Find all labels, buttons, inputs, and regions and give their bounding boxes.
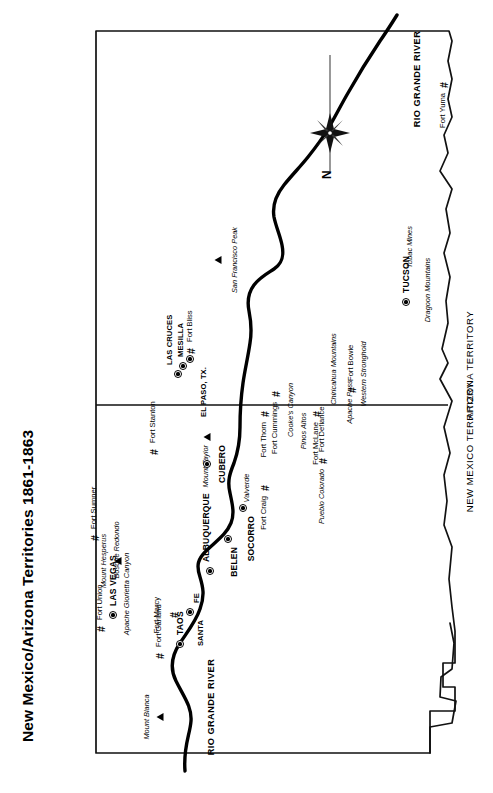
fort-label-fort-stanton: Fort Stanton bbox=[149, 401, 157, 443]
city-dot-icon-cubero bbox=[203, 460, 211, 468]
mountain-triangle-icon-mount-blanca bbox=[157, 713, 164, 721]
mountain-label-mount-blanca: Mount Blanca bbox=[143, 694, 151, 739]
fort-label-fort-bowie: Fort Bowie bbox=[347, 345, 355, 381]
page-title: New Mexico/Arizona Territories 1861-1863 bbox=[19, 422, 37, 742]
fort-label-fort-craig: Fort Craig bbox=[260, 496, 268, 530]
city-label-taos: TAOS bbox=[176, 611, 185, 635]
fort-hash-icon-fort-garland: # bbox=[150, 653, 168, 659]
fort-label-fort-marcy: Fort Marcy bbox=[153, 597, 161, 633]
place-label-pinos-altos: Pinos Altos bbox=[300, 413, 308, 450]
compass-rose: N bbox=[300, 53, 360, 173]
fort-hash-icon-fort-craig: # bbox=[255, 485, 273, 491]
mountain-triangle-icon-san-francisco-peak bbox=[215, 256, 222, 264]
city-label-fe: FE bbox=[193, 593, 201, 603]
city-label-santa: SANTA bbox=[197, 620, 205, 646]
fort-label-fort-thorn: Fort Thorn bbox=[260, 422, 268, 457]
place-label-apache-pass: Apache Pass bbox=[346, 380, 354, 424]
california-boundary-path bbox=[430, 623, 456, 753]
mountain-triangle-icon-mount-taylor bbox=[204, 433, 211, 441]
rotated-map-body: RIO GRANDE RIVER RIO GRANDE RIVER NEW ME… bbox=[0, 0, 493, 793]
place-label-pueblo-colorado: Pueblo Colorado bbox=[318, 469, 326, 524]
map-canvas: RIO GRANDE RIVER RIO GRANDE RIVER NEW ME… bbox=[0, 0, 493, 793]
city-dot-icon-taos bbox=[176, 640, 184, 648]
fort-hash-icon-fort-union: # bbox=[91, 626, 109, 632]
fort-hash-icon-fort-stanton: # bbox=[144, 449, 162, 455]
city-dot-icon-albuquerque bbox=[206, 567, 214, 575]
city-dot-icon-santa-fe bbox=[186, 608, 194, 616]
fort-label-fort-union: Fort Union bbox=[96, 585, 104, 620]
fort-label-fort-bliss: Fort Bliss bbox=[186, 310, 194, 342]
city-dot-icon-tucson bbox=[402, 298, 410, 306]
compass-rose-icon bbox=[300, 53, 360, 173]
fort-label-fort-cummings: Fort Cummings bbox=[271, 402, 279, 454]
fort-hash-icon-fort-cummings: # bbox=[266, 391, 284, 397]
city-label-cubero: CUBERO bbox=[218, 445, 227, 483]
fort-hash-icon-fort-yuma: # bbox=[434, 82, 452, 88]
place-label-bosque-redondo: Bosque Redondo bbox=[113, 521, 121, 578]
fort-label-fort-mclane: Fort McLane bbox=[312, 422, 320, 465]
river-label-rio-grande-south: RIO GRANDE RIVER bbox=[413, 31, 422, 128]
place-label-tubac-mines: Tubac Mines bbox=[406, 226, 414, 268]
city-label-belen: BELEN bbox=[230, 547, 239, 577]
place-label-valverde: Valverde bbox=[243, 474, 251, 503]
city-dot-icon-las-cruces bbox=[174, 370, 182, 378]
place-text-apache-glorietta-canyon: Apache Glorietta Canyon bbox=[122, 553, 131, 636]
city-dot-icon-las-vegas bbox=[109, 611, 117, 619]
fort-label-fort-sumner: Fort Sumner bbox=[90, 487, 98, 529]
city-dot-icon-el-paso bbox=[186, 355, 194, 363]
river-label-rio-grande-north: RIO GRANDE RIVER bbox=[207, 659, 216, 756]
mountain-label-mount-hesperus: Mount Hesperus bbox=[100, 534, 108, 588]
city-label-albuquerque: ALBUQUERQUE bbox=[202, 493, 211, 562]
city-label-mesilla: MESILLA bbox=[177, 323, 185, 357]
mountain-label-san-francisco-peak: San Francisco Peak bbox=[231, 227, 239, 293]
city-label-el-paso: EL PASO, TX. bbox=[200, 367, 208, 417]
city-label-socorro: SOCORRO bbox=[247, 516, 256, 561]
place-label-dragoon-mountains: Dragoon Mountains bbox=[424, 258, 432, 323]
fort-label-fort-yuma: Fort Yuma bbox=[439, 93, 447, 128]
fort-hash-icon-fort-sumner: # bbox=[85, 535, 103, 541]
compass-north-label: N bbox=[320, 170, 334, 179]
city-dot-icon-belen bbox=[224, 535, 232, 543]
city-label-las-cruces: LAS CRUCES bbox=[166, 315, 174, 365]
city-dot-icon-mesilla bbox=[179, 362, 187, 370]
place-label-apache-glorietta-canyon: Apache Glorietta Canyon bbox=[123, 553, 131, 636]
fort-hash-icon-fort-mclane: # bbox=[307, 411, 325, 417]
city-dot-icon-socorro bbox=[239, 504, 247, 512]
place-label-chiricahua-mountains: Chiricahua Mountains bbox=[330, 333, 338, 404]
territory-label-arizona: ARIZONA TERRITORY bbox=[465, 311, 475, 419]
place-label-cookes-canyon: Cooke's Canyon bbox=[287, 383, 295, 437]
place-label-western-stronghold: Western Stronghold bbox=[360, 341, 368, 406]
